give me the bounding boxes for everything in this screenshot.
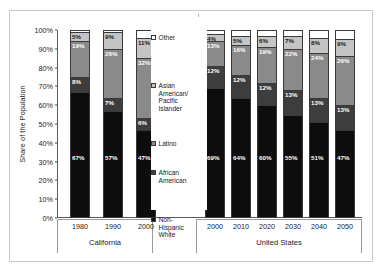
legend-item[interactable]: Latino [151, 140, 176, 148]
bar-value-label: 6% [138, 119, 147, 126]
x-tick-label: 1980 [72, 222, 88, 231]
bar-value-label: 47% [337, 154, 349, 161]
bar-value-label: 67% [72, 154, 84, 161]
bar-value-label: 7% [285, 37, 294, 44]
stacked-bar[interactable]: 9%26%7%57% [103, 30, 123, 218]
bar-segment: 16% [231, 45, 251, 75]
bar-segment: 24% [309, 53, 329, 98]
bar-value-label: 12% [259, 84, 271, 91]
bar-value-label: 22% [285, 50, 297, 57]
stacked-bar[interactable]: 5%16%12%64% [231, 30, 251, 218]
bar-value-label: 26% [337, 57, 349, 64]
legend-label: Non- Hispanic White [159, 216, 184, 239]
y-tick-mark [55, 105, 57, 106]
bar-value-label: 13% [207, 42, 219, 49]
legend-label: Other [159, 34, 176, 42]
legend-swatch [151, 35, 156, 40]
bar-value-label: 24% [311, 54, 323, 61]
legend-swatch [151, 170, 156, 175]
legend-swatch [151, 83, 156, 88]
bar-value-label: 19% [72, 42, 84, 49]
stacked-bar[interactable]: 9%26%13%47% [335, 30, 355, 218]
legend-swatch [151, 217, 156, 222]
y-tick-mark [55, 142, 57, 143]
bar-segment: 19% [70, 41, 90, 77]
bar-segment: 13% [335, 105, 355, 129]
bar-value-label: 7% [105, 99, 114, 106]
group-separator-right [361, 219, 362, 253]
legend-label: Latino [159, 140, 177, 148]
bar-segment: 57% [103, 111, 123, 218]
legend-item[interactable]: Other [151, 34, 175, 42]
group-label: California [89, 238, 121, 247]
legend-item[interactable]: African American [151, 169, 186, 184]
legend-item[interactable]: Asian American/ Pacific Islander [151, 82, 188, 112]
bar-segment: 9% [103, 32, 123, 49]
bar-segment: 7% [283, 36, 303, 49]
y-tick-mark [55, 161, 57, 162]
bar-value-label: 13% [337, 106, 349, 113]
bar-segment: 8% [70, 77, 90, 92]
bar-segment: 8% [309, 38, 329, 53]
legend-item[interactable]: Non- Hispanic White [151, 216, 184, 239]
bar-value-label: 13% [285, 91, 297, 98]
stacked-bar[interactable]: 8%24%13%51% [309, 30, 329, 218]
bar-value-label: 9% [105, 33, 114, 40]
x-tick-label: 2000 [207, 222, 223, 231]
bar-value-label: 12% [207, 67, 219, 74]
chart-figure: 0%10%20%30%40%50%60%70%80%90%100% Share … [9, 10, 373, 262]
bar-segment [335, 30, 355, 39]
bar-value-label: 9% [337, 40, 346, 47]
bar-segment: 19% [257, 47, 277, 83]
stacked-bar[interactable]: 6%19%12%60% [257, 30, 277, 218]
bar-value-label: 8% [72, 78, 81, 85]
bar-segment: 9% [335, 39, 355, 56]
bar-value-label: 55% [285, 154, 297, 161]
bar-segment: 47% [335, 130, 355, 218]
bar-value-label: 11% [138, 39, 150, 46]
group-line-california [57, 219, 153, 220]
legend-label: Asian American/ Pacific Islander [159, 82, 189, 112]
legend-swatch [151, 141, 156, 146]
group-separator-left [57, 219, 58, 253]
stacked-bar[interactable]: 5%19%8%67% [70, 30, 90, 218]
x-tick-label: 2050 [337, 222, 353, 231]
x-tick-label: 2010 [233, 222, 249, 231]
decorative-mark [198, 14, 199, 17]
bar-segment: 22% [283, 49, 303, 90]
bar-segment: 13% [283, 90, 303, 114]
x-axis-band: 198019902000200020102020203020402050 Cal… [57, 219, 362, 253]
bar-segment: 5% [231, 36, 251, 45]
x-tick-label: 1990 [105, 222, 121, 231]
bar-segment: 60% [257, 105, 277, 218]
bar-segment: 6% [257, 36, 277, 47]
bar-value-label: 47% [138, 154, 150, 161]
bar-value-label: 57% [105, 154, 117, 161]
y-tick-mark [55, 180, 57, 181]
bar-segment: 12% [231, 75, 251, 98]
bar-segment: 12% [257, 83, 277, 106]
bar-segment: 55% [283, 115, 303, 218]
group-separator-mid-b [196, 219, 197, 253]
bar-segment: 5% [70, 32, 90, 41]
bar-value-label: 26% [105, 50, 117, 57]
bar-value-label: 5% [233, 37, 242, 44]
bar-value-label: 64% [233, 154, 245, 161]
stacked-bar[interactable]: 4%13%12%69% [205, 30, 225, 218]
bar-value-label: 12% [233, 76, 245, 83]
y-tick-mark [55, 86, 57, 87]
bar-segment: 4% [205, 34, 225, 42]
y-tick-mark [55, 199, 57, 200]
bar-value-label: 8% [311, 39, 320, 46]
x-tick-label: 2030 [285, 222, 301, 231]
stacked-bar[interactable]: 7%22%13%55% [283, 30, 303, 218]
x-tick-label: 2040 [311, 222, 327, 231]
group-label: United States [256, 238, 302, 247]
legend-label: African American [159, 169, 187, 184]
y-tick-mark [55, 30, 57, 31]
bar-segment: 64% [231, 98, 251, 218]
plot-area: 0%10%20%30%40%50%60%70%80%90%100% Share … [57, 30, 362, 218]
y-tick-mark [55, 48, 57, 49]
bar-segment: 26% [335, 56, 355, 105]
bar-value-label: 16% [233, 46, 245, 53]
